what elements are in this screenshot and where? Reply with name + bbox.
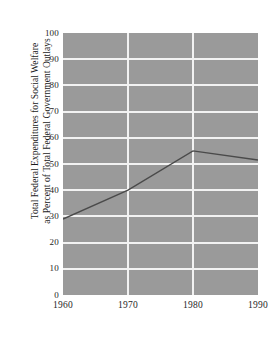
x-axis-tick-labels: 1960197019801990 [0,300,276,314]
y-axis-tick-label: 80 [7,81,59,90]
y-axis-tick-label: 20 [7,238,59,247]
y-axis-tick-label: 40 [7,186,59,195]
plot-area [63,33,258,295]
y-axis-tick-label: 10 [7,264,59,273]
y-axis-tick-label: 50 [7,160,59,169]
series-polyline [63,151,258,219]
cropped-top-caption [0,0,276,3]
chart-figure: Total Federal Expenditures for Social We… [0,0,276,339]
y-axis-tick-label: 90 [7,55,59,64]
x-axis-tick-label: 1960 [41,300,85,311]
y-axis-tick-label: 60 [7,133,59,142]
y-axis-tick-label: 30 [7,212,59,221]
y-axis-tick-label: 0 [7,291,59,300]
x-axis-tick-label: 1970 [106,300,150,311]
x-axis-tick-label: 1980 [171,300,215,311]
y-axis-tick-label: 100 [7,29,59,38]
x-axis-tick-label: 1990 [236,300,276,311]
data-series-line [63,33,258,295]
y-axis-tick-label: 70 [7,107,59,116]
y-axis-tick-labels: 0102030405060708090100 [0,33,59,295]
